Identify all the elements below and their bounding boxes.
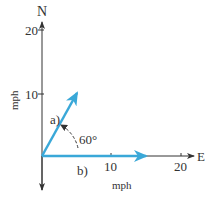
y-tick-20: 20 <box>25 23 38 38</box>
angle-label: 60° <box>79 132 97 147</box>
angle-arc <box>61 125 78 148</box>
east-label: E <box>197 149 205 164</box>
vector-diagram: N E 20 10 10 20 mph mph a) b) 60° <box>0 0 217 205</box>
y-unit-label: mph <box>8 90 20 110</box>
y-tick-10: 10 <box>25 87 38 102</box>
x-tick-10: 10 <box>104 159 117 174</box>
vector-a-label: a) <box>50 112 60 127</box>
axis-ticks <box>38 30 181 156</box>
north-label: N <box>37 4 47 19</box>
x-unit-label: mph <box>112 179 132 191</box>
vector-b-label: b) <box>77 163 88 178</box>
x-tick-20: 20 <box>174 159 187 174</box>
